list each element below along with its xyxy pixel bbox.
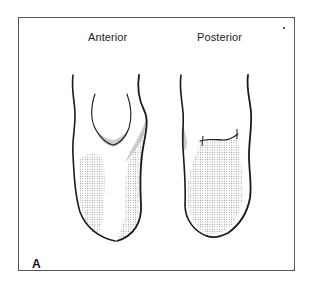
panel-label: A — [32, 257, 41, 271]
posterior-stipple-main — [188, 138, 244, 235]
anterior-stipple-left — [79, 154, 105, 236]
limb-illustration — [0, 0, 312, 291]
posterior-limb — [180, 75, 251, 237]
anterior-limb — [72, 75, 146, 241]
